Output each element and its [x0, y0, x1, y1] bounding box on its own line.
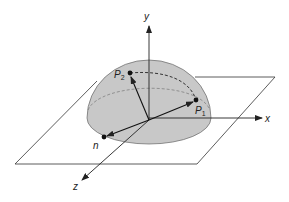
z-axis-label: z — [72, 181, 78, 192]
point-p2 — [128, 71, 133, 76]
point-n — [102, 135, 107, 140]
x-axis-label: x — [264, 113, 271, 124]
hemisphere-diagram: y x z P1 P2 n — [0, 0, 289, 202]
label-n: n — [93, 140, 99, 151]
point-p1 — [194, 98, 199, 103]
y-axis-label: y — [143, 11, 150, 22]
